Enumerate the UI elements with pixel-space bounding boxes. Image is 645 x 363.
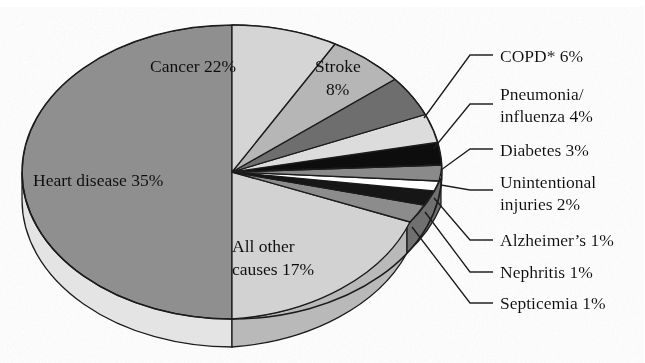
callout-nephritis: Nephritis 1% — [500, 262, 593, 282]
callout-unintentional-line2: injuries 2% — [500, 194, 580, 214]
callout-unintentional-line1: Unintentional — [500, 172, 596, 192]
callout-alzheimers: Alzheimer’s 1% — [500, 230, 614, 250]
callout-pneumonia-line1: Pneumonia/ — [500, 84, 584, 104]
label-stroke-line2: 8% — [326, 79, 349, 99]
leader-alzheimers — [434, 198, 493, 240]
leader-pneumonia — [434, 104, 493, 148]
label-cancer: Cancer 22% — [150, 56, 236, 76]
leader-diabetes — [441, 149, 493, 170]
label-all-other-line1: All other — [232, 236, 295, 256]
leader-unintentional — [441, 185, 493, 190]
callout-septicemia: Septicemia 1% — [500, 293, 605, 313]
label-heart-disease: Heart disease 35% — [33, 170, 163, 190]
callout-copd: COPD* 6% — [500, 46, 583, 66]
callout-diabetes: Diabetes 3% — [500, 140, 589, 160]
label-stroke-line1: Stroke — [315, 56, 361, 76]
leader-nephritis — [425, 212, 493, 272]
label-all-other-line2: causes 17% — [232, 259, 314, 279]
leader-septicemia — [412, 227, 493, 303]
pie-chart-canvas: Cancer 22% Stroke 8% Heart disease 35% A… — [0, 0, 645, 363]
callout-pneumonia-line2: influenza 4% — [500, 106, 593, 126]
leader-copd — [424, 55, 493, 118]
pie-chart-figure: Cancer 22% Stroke 8% Heart disease 35% A… — [0, 0, 645, 363]
